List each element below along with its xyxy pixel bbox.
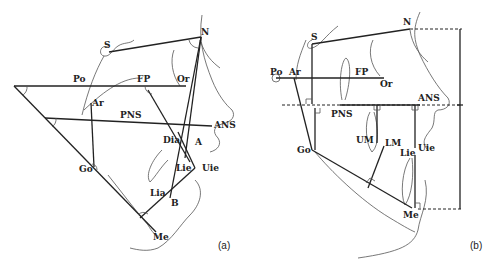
nasal-bone-outline — [410, 30, 428, 62]
label-Dia: Dia — [163, 135, 180, 145]
LM-perpendicular-line — [368, 146, 384, 188]
right-angle-marker — [415, 203, 420, 208]
tooth-outline — [148, 150, 168, 182]
pterygoid-outline — [340, 58, 349, 100]
panel-b: S N Po Ar FP Or ANS PNS UM LM Go Lie Uie… — [270, 12, 482, 258]
label-Lie: Lie — [400, 148, 416, 158]
label-ANS: ANS — [417, 93, 440, 103]
label-LM: LM — [385, 138, 401, 148]
label-Ar: Ar — [91, 98, 104, 108]
label-Me: Me — [403, 210, 419, 220]
panel-a: S N Po FP Or Ar PNS ANS Dia A Go Lie Uie… — [14, 15, 236, 251]
label-FP: FP — [137, 74, 150, 84]
incisor-outline — [402, 158, 412, 205]
label-PNS: PNS — [331, 109, 353, 119]
label-Go: Go — [297, 145, 311, 155]
label-PNS: PNS — [120, 110, 142, 120]
cephalometric-diagram: S N Po FP Or Ar PNS ANS Dia A Go Lie Uie… — [0, 0, 491, 261]
mandibular-plane-line — [14, 86, 156, 232]
label-Lia: Lia — [150, 188, 166, 198]
label-Lie: Lie — [176, 163, 192, 173]
label-B: B — [171, 198, 179, 208]
label-Go: Go — [79, 164, 93, 174]
label-Po: Po — [73, 74, 86, 84]
label-S: S — [104, 40, 111, 50]
molar-outline — [366, 112, 377, 152]
label-N: N — [403, 17, 411, 27]
nose-profile — [415, 12, 450, 150]
right-angle-marker — [315, 108, 320, 113]
nasal-bone-outline — [200, 40, 220, 68]
label-Ar: Ar — [288, 67, 301, 77]
ramus-line — [91, 103, 94, 167]
label-A: A — [194, 137, 203, 147]
label-N: N — [201, 27, 209, 37]
label-Me: Me — [153, 232, 169, 242]
caption-a: (a) — [218, 240, 230, 251]
N-B-line — [170, 37, 201, 198]
caption-b: (b) — [470, 240, 482, 251]
label-Uie: Uie — [418, 143, 435, 153]
mandible-outline — [315, 152, 415, 232]
label-ANS: ANS — [213, 120, 236, 130]
label-Or: Or — [380, 79, 393, 89]
label-Po: Po — [270, 67, 283, 77]
label-FP: FP — [355, 67, 368, 77]
right-angle-marker — [306, 99, 312, 104]
angle-arc — [23, 86, 27, 95]
angle-arc — [189, 40, 198, 48]
label-UM: UM — [356, 135, 374, 145]
ramus-line — [294, 78, 312, 150]
label-Uie: Uie — [202, 163, 219, 173]
orbit-outline — [370, 40, 380, 76]
label-S: S — [311, 32, 318, 42]
label-Or: Or — [177, 74, 190, 84]
mandibular-plane-line — [312, 150, 412, 208]
SN-line — [109, 37, 201, 52]
